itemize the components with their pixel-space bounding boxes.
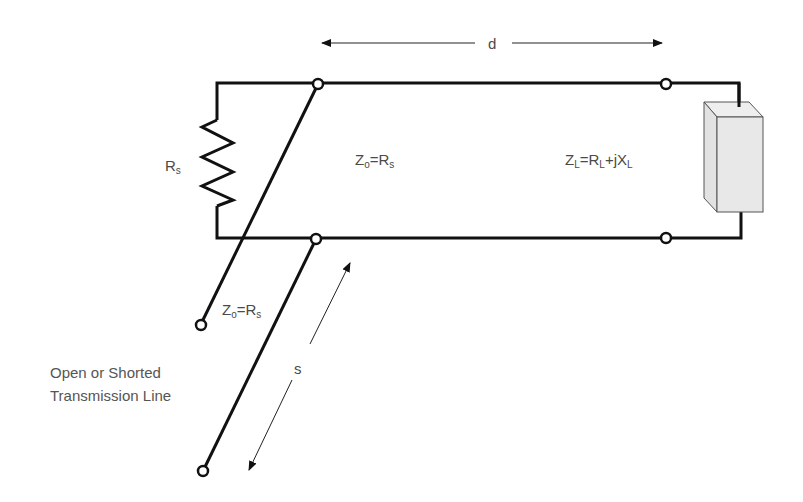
terminal-stub-top <box>313 79 323 89</box>
transmission-line-diagram: d s Rs Zo=Rs ZL=RL+jXL Zo=Rs Open or Sho… <box>0 0 803 502</box>
stub-lower-conductor <box>203 239 316 471</box>
stub-caption-line2: Transmission Line <box>50 387 171 404</box>
load-impedance-label: ZL=RL+jXL <box>565 151 633 170</box>
load-box <box>704 83 763 212</box>
terminal-load-bottom <box>661 233 671 243</box>
terminal-stub-end-lower <box>198 466 208 476</box>
terminal-load-top <box>661 79 671 89</box>
distance-d-label: d <box>488 35 496 52</box>
source-resistor <box>202 120 233 206</box>
terminal-stub-bottom <box>311 234 321 244</box>
line-impedance-label: Zo=Rs <box>355 151 394 170</box>
terminal-stub-end-upper <box>196 320 206 330</box>
source-resistor-label: Rs <box>165 157 181 176</box>
stub-impedance-label: Zo=Rs <box>222 301 261 320</box>
top-wire <box>217 83 739 120</box>
stub-caption-line1: Open or Shorted <box>50 364 161 381</box>
distance-s-label: s <box>294 360 302 377</box>
